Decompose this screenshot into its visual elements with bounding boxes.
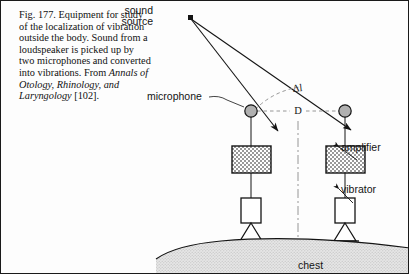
amplifier-left <box>232 146 271 173</box>
figure-panel: Fig. 177. Equipment for study of the loc… <box>0 0 409 274</box>
microphone-label: microphone <box>147 90 202 102</box>
amplifier-label: amplifier <box>341 141 381 153</box>
contact-cone-left <box>240 223 262 241</box>
sound-ray-right <box>191 19 351 130</box>
sound-ray-left <box>191 19 278 131</box>
microphone-leader-line <box>209 96 244 107</box>
sound-source-label-line2: source <box>121 15 153 27</box>
chest-label: chest <box>298 259 323 271</box>
microphone-left <box>245 105 257 117</box>
apparatus-diagram: sound source Δl D microphone amplifier <box>1 1 409 274</box>
path-difference-label: Δl <box>292 82 303 94</box>
contact-cone-right <box>334 223 356 241</box>
microphone-right <box>339 105 351 117</box>
vibrator-label: vibrator <box>341 183 377 195</box>
vibrator-left <box>241 198 261 223</box>
separation-label: D <box>294 105 302 116</box>
